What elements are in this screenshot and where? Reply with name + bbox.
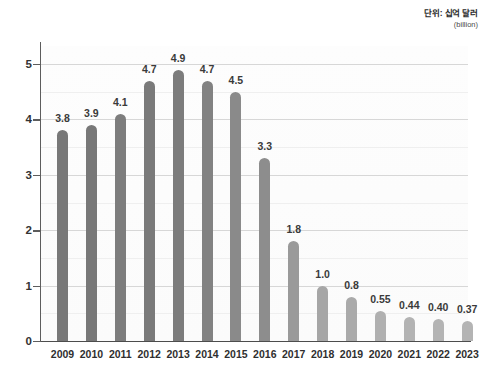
bar-value-label: 0.37: [457, 303, 477, 315]
bar-value-label: 3.3: [257, 140, 272, 152]
x-tick-label: 2018: [311, 348, 334, 360]
bar-value-label: 1.0: [315, 268, 330, 280]
y-tick-label: 1: [12, 280, 32, 292]
bar-value-label: 4.9: [171, 52, 186, 64]
bar: [317, 286, 328, 341]
y-axis-line: [40, 42, 41, 342]
x-tick-label: 2017: [282, 348, 305, 360]
bar: [230, 92, 241, 341]
bar-value-label: 3.9: [84, 107, 99, 119]
bar: [462, 321, 473, 341]
bar: [259, 158, 270, 341]
bar-value-label: 4.1: [113, 96, 128, 108]
gridline-major: [40, 175, 468, 176]
plot-area: [40, 46, 468, 341]
bar-value-label: 0.44: [399, 299, 419, 311]
gridline-minor: [40, 313, 468, 314]
bar: [57, 130, 68, 341]
bar-value-label: 0.8: [344, 279, 359, 291]
y-tick-mark: [33, 341, 41, 342]
bar: [144, 81, 155, 341]
bar: [173, 70, 184, 341]
x-tick-label: 2012: [138, 348, 161, 360]
y-tick-label: 4: [12, 113, 32, 125]
y-tick-mark: [33, 119, 41, 120]
x-tick-label: 2014: [195, 348, 218, 360]
x-tick-label: 2016: [253, 348, 276, 360]
gridline-major: [40, 119, 468, 120]
y-tick-mark: [33, 230, 41, 231]
bar: [346, 297, 357, 341]
gridline-minor: [40, 92, 468, 93]
x-tick-label: 2023: [455, 348, 478, 360]
gridline-major: [40, 230, 468, 231]
bar-chart: 단위: 십억 달러 (billion) 012345 3.83.94.14.74…: [0, 0, 490, 370]
bar: [86, 125, 97, 341]
bar-value-label: 4.7: [200, 63, 215, 75]
gridline-major: [40, 64, 468, 65]
y-tick-mark: [33, 64, 41, 65]
x-tick-label: 2015: [224, 348, 247, 360]
y-tick-label: 3: [12, 169, 32, 181]
bar: [404, 317, 415, 341]
x-tick-label: 2011: [109, 348, 132, 360]
bar-value-label: 3.8: [55, 112, 70, 124]
y-tick-label: 0: [12, 335, 32, 347]
unit-caption-sub: (billion): [424, 20, 478, 29]
gridline-minor: [40, 147, 468, 148]
bar-value-label: 1.8: [286, 223, 301, 235]
x-tick-label: 2021: [398, 348, 421, 360]
bar-value-label: 4.7: [142, 63, 157, 75]
bar: [375, 311, 386, 341]
x-tick-label: 2013: [166, 348, 189, 360]
x-tick-label: 2019: [340, 348, 363, 360]
y-tick-mark: [33, 286, 41, 287]
x-tick-label: 2010: [80, 348, 103, 360]
x-axis-line: [34, 341, 471, 342]
bar-value-label: 0.40: [428, 301, 448, 313]
gridline-major: [40, 286, 468, 287]
y-tick-label: 2: [12, 224, 32, 236]
x-tick-label: 2022: [427, 348, 450, 360]
x-tick-label: 2009: [51, 348, 74, 360]
bar-value-label: 4.5: [229, 74, 244, 86]
bar: [115, 114, 126, 341]
y-tick-mark: [33, 175, 41, 176]
y-tick-label: 5: [12, 58, 32, 70]
x-tick-label: 2020: [369, 348, 392, 360]
bar: [433, 319, 444, 341]
gridline-minor: [40, 203, 468, 204]
bar-value-label: 0.55: [370, 293, 390, 305]
bar: [288, 241, 299, 341]
unit-caption: 단위: 십억 달러 (billion): [424, 8, 478, 29]
unit-caption-main: 단위: 십억 달러: [424, 8, 478, 19]
gridline-minor: [40, 258, 468, 259]
bar: [202, 81, 213, 341]
